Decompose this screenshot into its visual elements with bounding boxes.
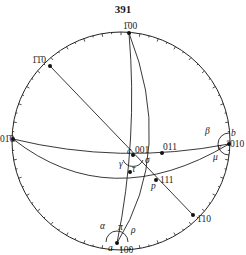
- angle-label-p: p: [150, 181, 156, 191]
- tick-mark: [58, 52, 59, 53]
- pole-p-1bar10: [191, 213, 195, 217]
- tick-mark: [182, 52, 183, 53]
- tick-mark: [220, 177, 223, 178]
- angle-label-tau: τ: [132, 164, 136, 174]
- angle-label-nu: ν: [217, 142, 222, 152]
- angle-label-rho: ρ: [130, 225, 136, 235]
- tick-mark: [32, 78, 33, 79]
- tick-mark: [189, 222, 191, 224]
- line-110-diagonal: [50, 66, 193, 215]
- pole-labels: 1̄001̄1̄001̄00100010111111̄10100: [0, 21, 245, 255]
- tick-mark: [67, 47, 69, 50]
- tick-mark: [202, 209, 204, 211]
- tick-mark: [139, 245, 140, 248]
- tick-mark: [38, 71, 40, 73]
- tick-mark: [225, 122, 228, 123]
- pole-label-p-001: 001: [135, 145, 150, 155]
- tick-mark: [14, 159, 17, 160]
- tick-mark: [157, 39, 158, 42]
- arc-100bar-011-100: [117, 33, 149, 243]
- angle-label-pi: π: [118, 222, 123, 232]
- angle-label-alpha: α: [100, 221, 106, 231]
- pole-p-100bar: [127, 31, 131, 35]
- tick-mark: [209, 78, 210, 79]
- tick-mark: [225, 159, 228, 160]
- tick-mark: [27, 87, 30, 89]
- pole-label-p-100: 100: [119, 245, 134, 255]
- pole-label-p-010: 010: [230, 139, 245, 149]
- tick-mark: [202, 71, 204, 73]
- tick-mark: [102, 34, 103, 37]
- tick-mark: [220, 104, 223, 105]
- tick-mark: [84, 240, 85, 243]
- tick-mark: [157, 240, 158, 243]
- pole-label-p-011: 011: [163, 142, 177, 152]
- angle-label-a: a: [108, 243, 113, 253]
- pole-label-p-1bar1bar0: 1̄1̄0: [32, 55, 46, 65]
- tick-mark: [67, 233, 69, 236]
- tick-mark: [19, 177, 22, 178]
- tick-mark: [84, 39, 85, 42]
- pole-label-p-111: 111: [160, 175, 174, 185]
- tick-mark: [174, 233, 176, 236]
- tick-mark: [44, 217, 45, 218]
- pole-label-p-01bar0: 01̄0: [0, 134, 15, 144]
- angle-label-gamma: γ: [119, 159, 123, 169]
- angle-label-sigma: σ: [145, 155, 150, 165]
- tick-mark: [38, 209, 40, 211]
- tick-mark: [32, 202, 33, 203]
- tick-mark: [14, 122, 17, 123]
- tick-mark: [182, 229, 183, 230]
- tick-mark: [213, 87, 216, 89]
- tick-mark: [197, 64, 198, 65]
- tick-mark: [102, 245, 103, 248]
- tick-mark: [209, 202, 210, 203]
- pole-label-p-1bar10: 1̄10: [197, 214, 211, 224]
- tick-mark: [174, 47, 176, 50]
- arc-010bar-001-010: [13, 139, 229, 153]
- angle-label-beta: β: [204, 126, 210, 136]
- projection-svg: 1̄001̄1̄001̄00100010111111̄10100 απρaβbν…: [0, 0, 246, 255]
- tick-mark: [19, 104, 22, 105]
- tick-mark: [189, 58, 191, 60]
- stereographic-projection-figure: 391 1̄001̄1̄001̄00100010111111̄10100 απρ…: [0, 0, 246, 255]
- tick-mark: [27, 194, 30, 196]
- tick-mark: [58, 229, 59, 230]
- angle-arc-alpha-rho: [106, 231, 128, 242]
- pole-label-p-100bar: 1̄00: [123, 21, 138, 31]
- angle-label-b: b: [231, 128, 236, 138]
- tick-mark: [139, 34, 140, 37]
- tick-mark: [51, 222, 53, 224]
- pole-p-1bar1bar0: [48, 64, 52, 68]
- tick-mark: [51, 58, 53, 60]
- angle-label-mu: μ: [212, 152, 218, 162]
- tick-mark: [213, 194, 216, 196]
